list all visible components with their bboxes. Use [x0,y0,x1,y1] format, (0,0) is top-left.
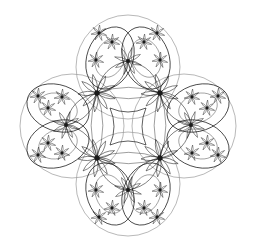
petal [54,125,66,132]
small-hub-dot [37,154,40,157]
small-hub-dot [159,59,162,62]
center-region [110,108,146,145]
small-hub-dot [111,207,114,210]
link-arc [97,158,128,190]
fractal-canvas [0,0,254,252]
inner-lobe [174,124,221,164]
lobe [77,20,142,96]
small-hub-dot [143,41,146,44]
small-hub-dot [159,189,162,192]
small-hub-dot [156,32,159,35]
fractal-figure [0,0,254,252]
small-hub-dot [95,189,98,192]
secondary-flower-icon [115,48,142,75]
lobe [77,156,142,232]
petal [155,139,160,158]
small-hub-dot [217,154,220,157]
small-hub-dot [98,32,101,35]
lobe [160,111,236,176]
small-hub-dot [191,152,194,155]
petal [184,113,191,125]
main-flower-icon [78,139,115,176]
hub-arc [154,93,160,158]
inner-lobe [34,124,81,164]
lobe [160,75,236,140]
petal [83,158,97,171]
small-hub-dot [217,95,220,98]
petal [92,74,97,93]
small-hub-dot [156,216,159,219]
small-hub-dot [47,107,50,110]
hub-core [126,59,130,63]
secondary-flower-icon [178,112,205,139]
hub-core [94,155,99,160]
outer-circles [20,15,236,236]
lobes [20,20,236,232]
hub-arc [91,93,97,158]
main-flower-icon [141,139,178,176]
link-arc [97,158,128,190]
small-hub-dot [61,96,64,99]
small-hub-dot [206,142,209,145]
hub-core [94,90,99,95]
petal [97,93,107,109]
small-hub-dot [47,142,50,145]
outer-circle [76,132,180,236]
small-hub-dot [95,59,98,62]
small-hub-dot [206,107,209,110]
hub-core [126,188,130,192]
small-hub-dot [143,207,146,210]
small-hub-dot [191,96,194,99]
small-hub-dot [37,95,40,98]
small-hub-dot [61,152,64,155]
small-hub-dot [111,41,114,44]
hub-core [189,123,193,127]
hub-core [157,155,162,160]
hub-core [157,90,162,95]
hub-core [64,123,68,127]
petal [191,125,198,137]
small-hub-dot [98,216,101,219]
